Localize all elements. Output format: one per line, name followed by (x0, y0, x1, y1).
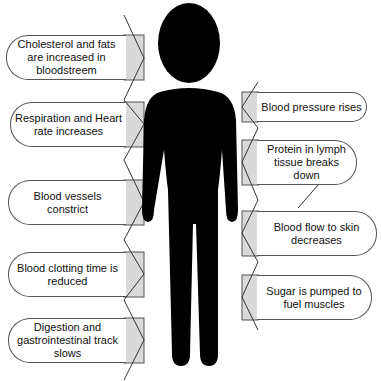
effect-label-digestion: Digestion and gastrointestinal track slo… (8, 318, 126, 363)
effect-label-protein: Protein in lymph tissue breaks down (257, 140, 357, 185)
diagram-canvas: Cholesterol and fats are increased in bl… (0, 0, 381, 381)
effect-label-text: Blood vessels constrict (13, 190, 122, 216)
effect-label-cholesterol: Cholesterol and fats are increased in bl… (6, 35, 126, 80)
effect-label-text: Protein in lymph tissue breaks down (261, 143, 352, 182)
effect-label-sugar: Sugar is pumped to fuel muscles (257, 275, 372, 320)
effect-label-clotting: Blood clotting time is reduced (8, 252, 126, 297)
effect-label-blood-flow: Blood flow to skin decreases (257, 211, 377, 256)
effect-label-text: Respiration and Heart rate increases (15, 112, 122, 138)
effect-label-blood-vessels: Blood vessels constrict (8, 180, 126, 225)
effect-label-text: Digestion and gastrointestinal track slo… (13, 321, 122, 360)
effect-label-text: Blood pressure rises (261, 101, 361, 114)
effect-label-text: Cholesterol and fats are increased in bl… (11, 38, 122, 77)
effect-label-text: Sugar is pumped to fuel muscles (261, 285, 367, 311)
effect-label-text: Blood clotting time is reduced (13, 262, 122, 288)
effect-label-text: Blood flow to skin decreases (261, 221, 372, 247)
effect-label-respiration: Respiration and Heart rate increases (10, 102, 126, 147)
effect-label-blood-pressure: Blood pressure rises (257, 92, 367, 122)
